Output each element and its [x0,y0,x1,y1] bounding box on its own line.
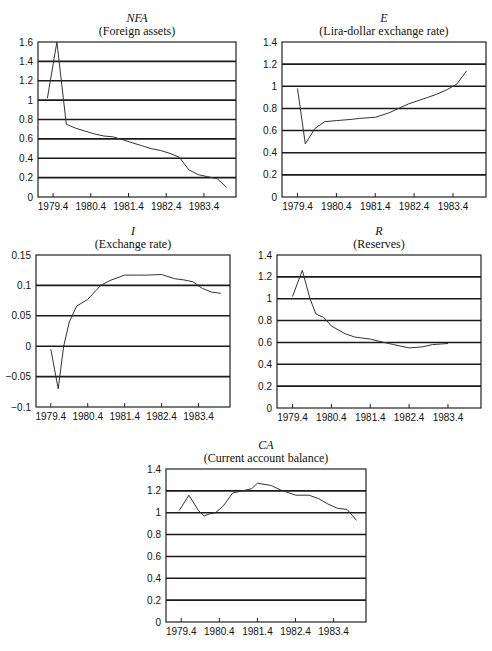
y-tick-label: 1.4 [19,56,33,67]
chart-panel-i: I(Exchange rate)−0.1−0.0500.050.10.15197… [0,215,245,430]
y-tick-label: 1.4 [147,464,161,475]
x-tick-label: 1981.4 [113,201,144,212]
x-tick-label: 1983.4 [438,201,469,212]
y-tick-label: 1.2 [258,271,272,282]
y-tick-label: 0.2 [147,595,161,606]
y-tick-label: 0.8 [258,315,272,326]
y-tick-label: 0.6 [258,337,272,348]
chart-title: CA [258,438,274,452]
x-tick-label: 1983.4 [433,412,464,423]
y-tick-label: 0.6 [147,551,161,562]
x-tick-label: 1982.4 [399,201,430,212]
y-tick-label: 1.2 [263,59,277,70]
chart-title: R [374,224,383,238]
y-tick-label: −0.05 [6,371,32,382]
chart-panel-ca: CA(Current account balance)00.20.40.60.8… [130,425,380,651]
x-tick-label: 1979.4 [38,201,69,212]
y-tick-label: 0.2 [19,172,33,183]
y-tick-label: 0.8 [147,529,161,540]
x-tick-label: 1979.4 [35,411,66,422]
chart-panel-e: E(Lira-dollar exchange rate)00.20.40.60.… [245,0,492,215]
chart-subtitle: (Foreign assets) [99,24,175,38]
y-tick-label: 0.2 [258,381,272,392]
chart-subtitle: (Current account balance) [204,451,329,465]
y-tick-label: 1.2 [147,485,161,496]
x-tick-label: 1979.4 [166,626,197,637]
x-tick-label: 1981.4 [109,411,140,422]
plot-frame [36,255,230,407]
y-tick-label: 0.4 [147,573,161,584]
chart-title: NFA [125,11,148,25]
chart-title: I [130,224,136,238]
y-tick-label: 0.8 [19,114,33,125]
x-tick-label: 1982.4 [151,201,182,212]
x-tick-label: 1981.4 [242,626,273,637]
y-tick-label: 1 [27,95,33,106]
chart-svg-r: R(Reserves)00.20.40.60.811.21.41979.4198… [245,215,492,430]
chart-panel-r: R(Reserves)00.20.40.60.811.21.41979.4198… [245,215,492,430]
y-tick-label: 0.4 [263,147,277,158]
series-line-r [293,270,449,348]
y-tick-label: 0.1 [17,280,31,291]
y-tick-label: 0.05 [12,310,32,321]
chart-svg-e: E(Lira-dollar exchange rate)00.20.40.60.… [245,0,492,215]
x-tick-label: 1980.4 [72,411,103,422]
y-tick-label: 0.8 [263,103,277,114]
x-tick-label: 1982.4 [280,626,311,637]
y-tick-label: 0.6 [19,133,33,144]
series-line-nfa [47,42,226,187]
y-tick-label: 0 [266,403,272,414]
x-tick-label: 1980.4 [204,626,235,637]
x-tick-label: 1983.4 [318,626,349,637]
plot-frame [277,255,481,408]
y-tick-label: 0 [271,192,277,203]
y-tick-label: 1.2 [19,75,33,86]
y-tick-label: 1.4 [258,250,272,261]
x-tick-label: 1982.4 [146,411,177,422]
x-tick-label: 1980.4 [76,201,107,212]
y-tick-label: 1.4 [263,37,277,48]
y-tick-label: 0.4 [19,153,33,164]
x-tick-label: 1982.4 [394,412,425,423]
series-line-ca [179,483,356,520]
x-tick-label: 1981.4 [360,201,391,212]
x-tick-label: 1979.4 [277,412,308,423]
y-tick-label: 1 [271,81,277,92]
chart-subtitle: (Exchange rate) [95,237,171,251]
y-tick-label: 1 [155,507,161,518]
x-tick-label: 1980.4 [321,201,352,212]
x-tick-label: 1983.4 [189,201,220,212]
y-tick-label: 0 [155,617,161,628]
x-tick-label: 1980.4 [316,412,347,423]
y-tick-label: 0.4 [258,359,272,370]
chart-subtitle: (Reserves) [353,237,404,251]
chart-svg-i: I(Exchange rate)−0.1−0.0500.050.10.15197… [0,215,245,430]
chart-subtitle: (Lira-dollar exchange rate) [319,24,448,38]
y-tick-label: 0.15 [12,250,32,261]
series-line-e [298,71,467,144]
series-line-i [51,275,221,389]
y-tick-label: 0.6 [263,125,277,136]
x-tick-label: 1983.4 [183,411,214,422]
y-tick-label: 1 [266,293,272,304]
chart-panel-nfa: NFA(Foreign assets)00.20.40.60.811.21.41… [0,0,245,215]
x-tick-label: 1979.4 [282,201,313,212]
plot-frame [166,469,366,622]
x-tick-label: 1981.4 [355,412,386,423]
chart-svg-nfa: NFA(Foreign assets)00.20.40.60.811.21.41… [0,0,245,215]
plot-frame [282,42,486,197]
chart-title: E [379,11,388,25]
y-tick-label: −0.1 [11,402,31,413]
y-tick-label: 0 [25,341,31,352]
y-tick-label: 1.6 [19,37,33,48]
y-tick-label: 0 [27,192,33,203]
y-tick-label: 0.2 [263,169,277,180]
chart-svg-ca: CA(Current account balance)00.20.40.60.8… [130,425,380,651]
